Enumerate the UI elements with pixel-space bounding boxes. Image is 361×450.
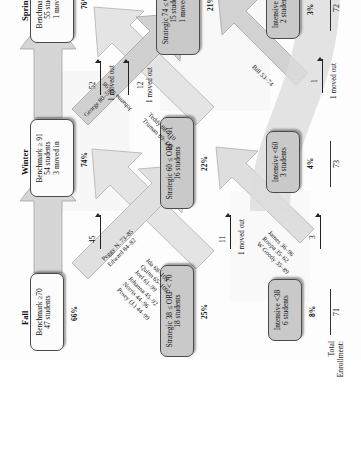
- count-arrow-head-3: [315, 213, 321, 217]
- node-line: 2 students: [280, 0, 288, 23]
- node-winter-benchmark[interactable]: Benchmark ≥ 91 54 students 3 moved in: [30, 119, 74, 197]
- node-spring-benchmark[interactable]: Benchmark ≥ 107 55 students 1 moved in: [30, 0, 74, 43]
- diagram-canvas: Fall Winter Spring Benchmark ≥70 47 stud…: [0, 0, 361, 361]
- pct-winter-strategic: 22%: [200, 156, 209, 171]
- count-label-12: 12: [136, 82, 145, 89]
- count-arrow-line-11: [230, 215, 231, 249]
- count-arrow-head-12: [123, 59, 129, 63]
- total-enrollment-winter: 73: [330, 141, 341, 187]
- node-fall-intensive[interactable]: Intensive <38 6 students: [268, 279, 302, 341]
- pct-fall-intensive: 8%: [308, 306, 317, 317]
- column-header-winter: Winter: [20, 149, 30, 175]
- node-line: 3 moved in: [53, 141, 61, 174]
- pct-winter-intensive: 4%: [306, 158, 315, 169]
- count-arrow-line-3: [320, 215, 321, 249]
- node-line: 18 students: [174, 294, 182, 327]
- count-label-3: 3: [308, 235, 317, 239]
- total-enrollment-spring: 72: [330, 0, 341, 31]
- total-enrollment-label-line1: Total: [327, 341, 336, 357]
- node-line: 6 students: [282, 295, 290, 325]
- total-enrollment-fall: 71: [330, 289, 341, 335]
- column-header-spring: Spring: [20, 0, 30, 21]
- count-arrow-line-52: [100, 61, 101, 95]
- count-label-45: 45: [88, 236, 97, 243]
- node-spring-intensive[interactable]: Intensive <74 2 students: [266, 0, 300, 39]
- count-arrow-line-45: [100, 215, 101, 249]
- total-enrollment-label: Total Enrollment:: [328, 341, 345, 413]
- node-line: 16 students: [174, 146, 182, 179]
- count-arrow-head-52: [95, 59, 101, 63]
- node-spring-strategic[interactable]: Strategic 74 ≤ ORF < 107 15 students 1 m…: [156, 0, 200, 55]
- node-fall-benchmark[interactable]: Benchmark ≥70 47 students: [30, 273, 64, 351]
- pct-spring-strategic: 21%: [206, 0, 215, 11]
- count-arrow-head-45: [95, 213, 101, 217]
- moved-out-label-11: 1 moved out: [238, 219, 246, 255]
- count-arrow-head-11: [225, 213, 231, 217]
- pct-winter-benchmark: 74%: [80, 152, 89, 167]
- moved-out-label-12: 1 moved out: [146, 67, 154, 103]
- pct-fall-benchmark: 66%: [70, 306, 79, 321]
- pct-fall-strategic: 25%: [200, 304, 209, 319]
- node-line: 3 students: [280, 147, 288, 177]
- count-label-1: 1: [310, 79, 319, 83]
- pct-spring-intensive: 3%: [306, 4, 315, 15]
- node-line: 1 moved in: [179, 0, 187, 23]
- node-line: 47 students: [44, 295, 52, 328]
- count-label-52: 52: [88, 82, 97, 89]
- count-label-11: 11: [218, 236, 227, 243]
- pct-spring-benchmark: 76%: [80, 0, 89, 9]
- node-winter-intensive[interactable]: Intensive <60 3 students: [266, 131, 300, 193]
- moved-out-label-1: 1 moved out: [330, 63, 338, 99]
- count-arrow-head-1: [317, 57, 323, 61]
- count-arrow-line-1: [322, 59, 323, 93]
- total-enrollment-label-line2: Enrollment:: [336, 341, 345, 377]
- node-line: 1 moved in: [53, 0, 61, 19]
- count-arrow-line-12: [128, 61, 129, 95]
- rotated-diagram-wrapper: Fall Winter Spring Benchmark ≥70 47 stud…: [0, 0, 361, 361]
- column-header-fall: Fall: [20, 311, 30, 325]
